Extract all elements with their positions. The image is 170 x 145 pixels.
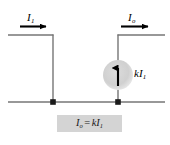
equation-text: Io=kI1 <box>76 118 103 129</box>
output-current-subscript: o <box>132 17 135 24</box>
input-current-label: I1 <box>27 12 34 23</box>
equation-lhs-subscript: o <box>79 122 82 129</box>
equation-operator: = <box>83 117 92 128</box>
equation-rhs-subscript: 1 <box>100 122 103 129</box>
source-current-symbol: I <box>139 67 143 79</box>
source-current-subscript: 1 <box>143 73 146 80</box>
input-current-subscript: 1 <box>31 17 34 24</box>
source-value-label: kI1 <box>134 68 146 79</box>
output-current-label: Io <box>128 12 135 23</box>
junction-node-right <box>115 99 121 105</box>
equation-box: Io=kI1 <box>57 115 122 132</box>
circuit-diagram-figure: I1 Io kI1 Io=kI1 <box>0 0 170 145</box>
junction-node-left <box>50 99 56 105</box>
